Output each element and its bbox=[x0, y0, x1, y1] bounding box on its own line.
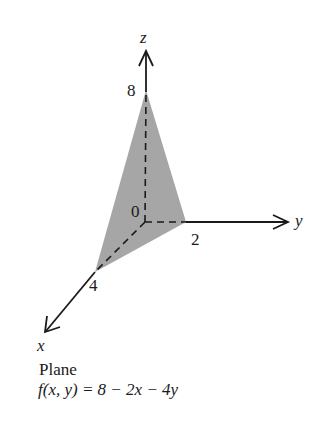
z-axis-label: z bbox=[140, 29, 147, 46]
plane-triangle bbox=[95, 90, 186, 272]
plane-diagram: z 8 0 2 y 4 x Plane f(x, y) = 8 − 2x − 4… bbox=[0, 0, 326, 427]
caption-equation: f(x, y) = 8 − 2x − 4y bbox=[38, 381, 178, 400]
z-intercept-label: 8 bbox=[127, 82, 136, 99]
x-axis bbox=[46, 272, 95, 331]
y-axis-label: y bbox=[295, 212, 303, 229]
x-axis-label: x bbox=[37, 337, 45, 354]
origin-label: 0 bbox=[131, 203, 140, 220]
y-intercept-label: 2 bbox=[191, 231, 200, 248]
caption-title: Plane bbox=[39, 361, 77, 380]
x-intercept-label: 4 bbox=[89, 277, 98, 294]
